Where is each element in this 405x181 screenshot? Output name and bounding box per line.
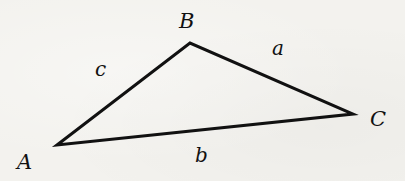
vertex-label-b: B [179, 11, 194, 32]
vertex-label-c: C [370, 109, 386, 130]
side-label-a: a [272, 38, 284, 58]
side-label-c: c [95, 59, 106, 79]
vertex-label-a: A [17, 152, 32, 173]
side-label-b: b [195, 145, 208, 165]
